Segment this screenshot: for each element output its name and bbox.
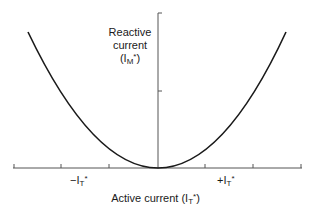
y-label-line2: current	[104, 39, 156, 52]
x-axis-label: Active current (IT*)	[0, 192, 311, 205]
x-tick-label-negative: −IT*	[70, 174, 88, 187]
y-label-symbol: (IM*)	[104, 52, 156, 65]
parabola-curve	[28, 32, 286, 168]
y-axis-ticks	[158, 13, 162, 91]
y-axis-label: Reactive current (IM*)	[104, 26, 156, 65]
y-label-line1: Reactive	[104, 26, 156, 39]
x-tick-label-positive: +IT*	[217, 174, 235, 187]
